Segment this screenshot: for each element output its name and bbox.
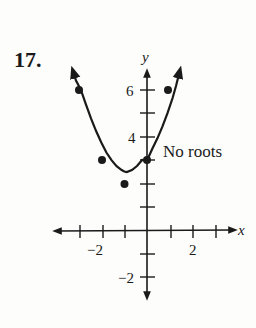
y-tick-label-neg2: −2	[118, 270, 134, 286]
point-1-6	[164, 86, 172, 94]
y-tick-label-6: 6	[126, 83, 134, 99]
x-axis-label: x	[237, 222, 245, 238]
y-axis-label: y	[140, 49, 149, 65]
point-neg3-6	[75, 86, 83, 94]
annotation-no-roots: No roots	[163, 142, 222, 161]
x-tick-label-neg2: −2	[87, 242, 103, 258]
parabola-graph: y x 6 4 −2 −2 2 No roots	[0, 0, 256, 328]
y-tick-label-4: 4	[128, 130, 136, 146]
point-neg1-2	[121, 180, 129, 188]
point-0-3	[143, 156, 151, 164]
parabola-curve	[73, 72, 173, 219]
x-axis	[57, 230, 233, 231]
point-neg2-3	[98, 156, 106, 164]
x-tick-label-2: 2	[189, 242, 197, 258]
